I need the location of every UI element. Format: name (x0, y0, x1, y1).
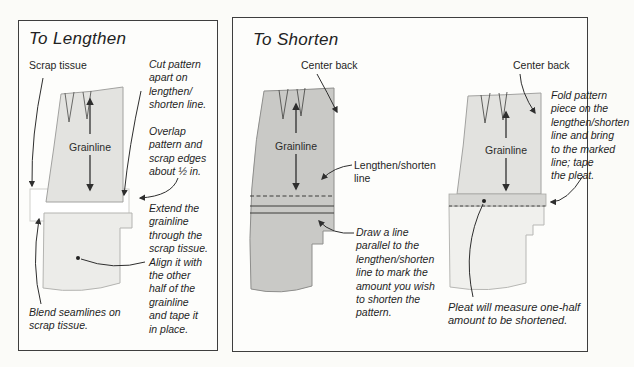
center-back-label: Center back (301, 59, 358, 72)
panel-to-lengthen: Grainline To Lengthen Scrap tissue Cut p… (18, 20, 218, 351)
leader-arrow-blend (35, 219, 41, 304)
lengthen-title: To Lengthen (29, 29, 126, 49)
leader-arrow-scrap-tissue (32, 78, 43, 186)
reference-dot (482, 199, 486, 203)
annotation-pleat-note: Pleat will measure one-half amount to be… (448, 301, 593, 328)
annotation-fold-instruction: Fold pattern piece on the lengthen/short… (551, 89, 634, 183)
shorten-title: To Shorten (253, 30, 339, 50)
pattern-piece-mark (250, 88, 334, 292)
center-back-label: Center back (513, 59, 570, 72)
pattern-piece-lower (43, 213, 132, 291)
annotation-extend: Extend the grainline through the scrap t… (149, 202, 213, 336)
scrap-tissue-label: Scrap tissue (29, 59, 87, 72)
grainline-label: Grainline (485, 144, 527, 156)
annotation-lengthen-shorten-line: Lengthen/shorten line (354, 159, 454, 185)
panel-to-shorten: Grainline Grainline To Shorten Center ba… (232, 17, 588, 352)
annotation-overlap: Overlap pattern and scrap edges about ½ … (149, 125, 213, 179)
leader-arrow-cut-apart (124, 91, 141, 195)
reference-dot (76, 256, 80, 260)
grainline-label: Grainline (69, 141, 111, 153)
pleat-band (449, 194, 546, 206)
annotation-blend: Blend seamlines on scrap tissue. (29, 306, 149, 333)
annotation-draw-line: Draw a line parallel to the lengthen/sho… (356, 226, 456, 320)
grainline-label: Grainline (275, 140, 317, 152)
leader-arrow-overlap (140, 178, 178, 198)
annotation-cut-apart: Cut pattern apart on lengthen/ shorten l… (149, 58, 213, 112)
pattern-piece-fold-lower (449, 206, 544, 290)
